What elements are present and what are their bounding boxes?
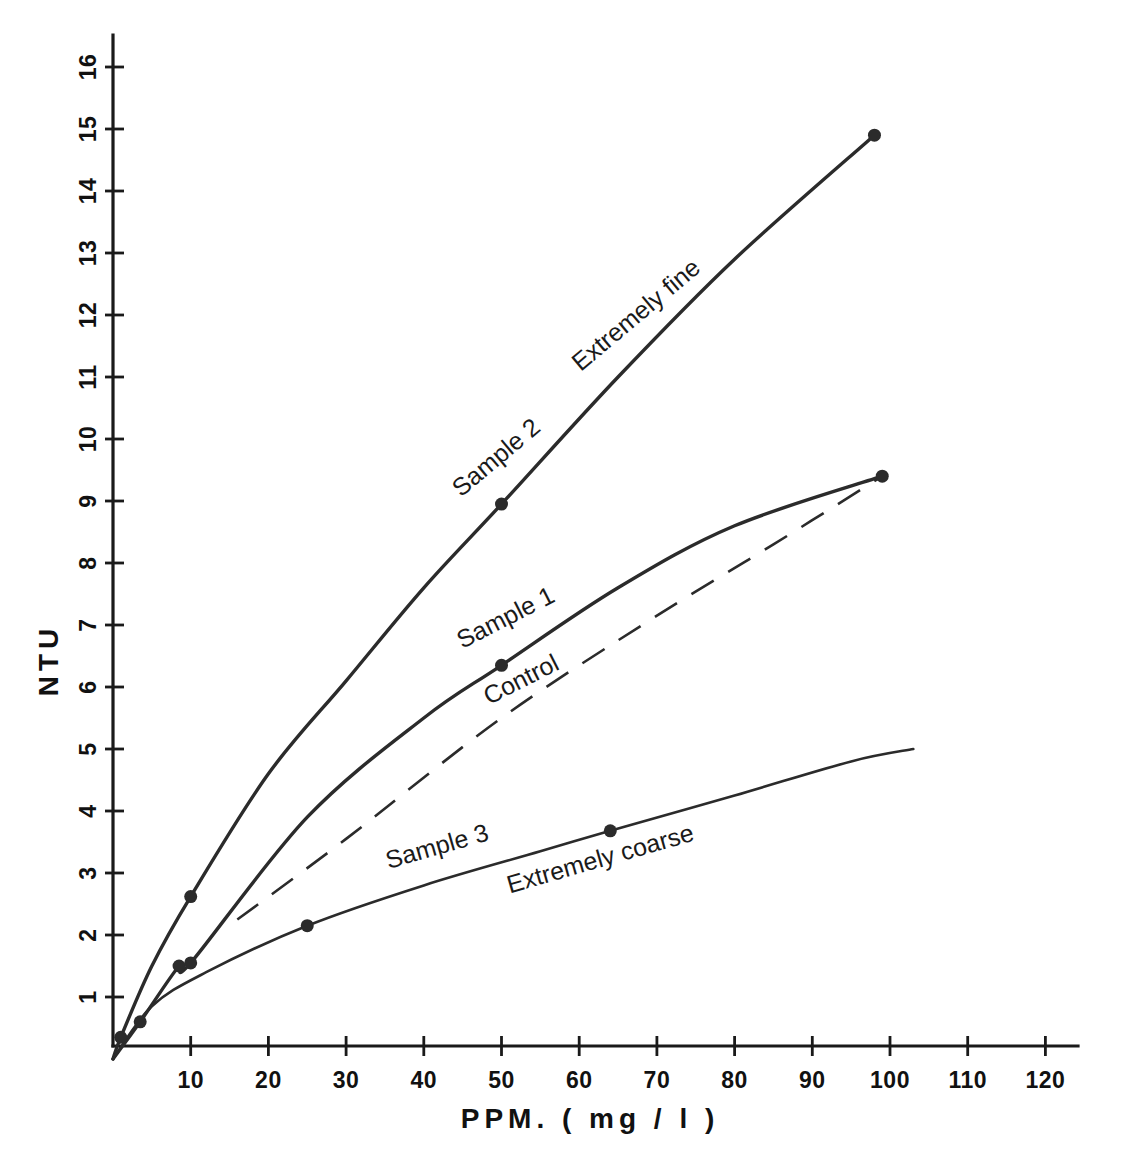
curve-label: Sample 1 (452, 581, 559, 654)
y-tick-label: 10 (75, 426, 101, 453)
x-tick-label: 40 (411, 1067, 438, 1093)
curve-label: Sample 2 (446, 412, 545, 501)
y-tick-label: 6 (75, 680, 101, 693)
curve-control (237, 476, 882, 919)
x-tick-label: 60 (566, 1067, 593, 1093)
y-tick-label: 7 (75, 618, 101, 631)
y-tick-label: 4 (75, 804, 101, 817)
y-tick-label: 13 (75, 240, 101, 267)
x-tick-label: 70 (644, 1067, 671, 1093)
y-tick-label: 11 (75, 364, 101, 389)
x-tick-label: 30 (333, 1067, 360, 1093)
data-point (173, 960, 186, 973)
axis-lines (113, 35, 1078, 1046)
y-tick-label: 2 (75, 928, 101, 941)
x-tick-label: 20 (255, 1067, 282, 1093)
y-tick-label: 9 (75, 494, 101, 507)
data-point (876, 470, 889, 483)
x-tick-label: 110 (948, 1067, 987, 1093)
curve-label: Extremely coarse (503, 818, 696, 898)
x-tick-label: 90 (799, 1067, 826, 1093)
curve-sample-1 (113, 476, 882, 1059)
data-point (604, 824, 617, 837)
curve-sample-2 (113, 135, 874, 1059)
data-point (868, 129, 881, 142)
y-tick-label: 1 (75, 990, 101, 1003)
data-point (184, 890, 197, 903)
x-tick-label: 120 (1025, 1067, 1065, 1093)
curve-label: Sample 3 (382, 818, 491, 874)
y-axis-ticks: 12345678910111213141516 (75, 54, 124, 1004)
line-chart-plot: 12345678910111213141516 1020304050607080… (0, 0, 1127, 1166)
x-axis-title: PPM. ( mg / l ) (461, 1103, 720, 1134)
y-axis-title: NTU (33, 624, 64, 697)
y-tick-label: 3 (75, 866, 101, 879)
x-tick-label: 80 (721, 1067, 748, 1093)
y-tick-label: 15 (75, 116, 101, 143)
curve-sample-3 (113, 749, 913, 1059)
y-tick-label: 8 (75, 556, 101, 569)
y-tick-label: 16 (75, 54, 101, 81)
data-point (301, 919, 314, 932)
data-point (184, 956, 197, 969)
x-tick-label: 50 (488, 1067, 515, 1093)
data-point (134, 1015, 147, 1028)
y-tick-label: 5 (75, 742, 101, 755)
data-point (495, 498, 508, 511)
data-points (114, 129, 888, 1044)
curve-label: Control (478, 648, 563, 710)
chart-figure: 12345678910111213141516 1020304050607080… (0, 0, 1127, 1166)
data-point (114, 1031, 127, 1044)
curve-annotations: Sample 2Extremely fineSample 1ControlSam… (382, 253, 705, 899)
x-tick-label: 10 (177, 1067, 204, 1093)
y-tick-label: 12 (75, 302, 101, 329)
x-tick-label: 100 (870, 1067, 910, 1093)
y-tick-label: 14 (75, 178, 101, 205)
